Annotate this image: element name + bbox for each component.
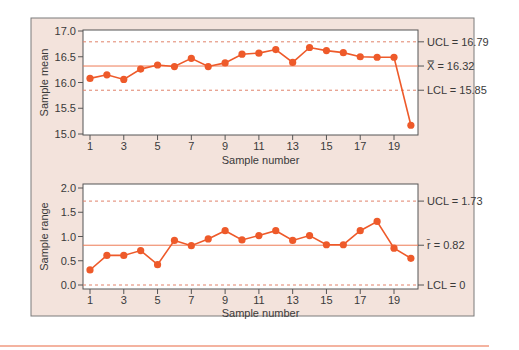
data-point: [137, 247, 144, 254]
data-point: [340, 241, 347, 248]
y-tick-label: 15.0: [55, 128, 76, 140]
y-tick-label: 1.0: [61, 231, 76, 243]
data-point: [407, 122, 414, 129]
y-tick-label: 16.5: [55, 51, 76, 63]
data-point: [188, 242, 195, 249]
data-point: [374, 54, 381, 61]
data-point: [222, 59, 229, 66]
data-point: [390, 54, 397, 61]
ucl-line-label: UCL = 1.73: [427, 195, 483, 207]
x-tick-label: 11: [253, 140, 264, 152]
plot-area: [83, 184, 418, 289]
plot-area: [83, 30, 418, 135]
x-axis-label: Sample number: [222, 307, 300, 319]
data-point: [289, 237, 296, 244]
x-tick-label: 19: [388, 294, 400, 306]
x-tick-label: 11: [253, 294, 264, 306]
x-tick-label: 1: [87, 294, 93, 306]
data-point: [103, 71, 110, 78]
y-tick-label: 17.0: [55, 25, 76, 37]
y-tick-label: 2.0: [61, 182, 76, 194]
data-point: [154, 61, 161, 68]
x-tick-label: 13: [287, 294, 299, 306]
x-tick-label: 9: [222, 294, 228, 306]
x-tick-label: 7: [188, 294, 194, 306]
x-tick-label: 3: [121, 294, 127, 306]
data-point: [323, 241, 330, 248]
data-point: [205, 63, 212, 70]
x-tick-label: 13: [287, 140, 299, 152]
lcl-line-label: LCL = 15.85: [427, 84, 487, 96]
x-axis-label: Sample number: [222, 154, 300, 166]
center-line-label: r̄ = 0.82: [426, 239, 464, 251]
data-point: [137, 66, 144, 73]
data-point: [289, 59, 296, 66]
data-point: [205, 235, 212, 242]
data-point: [306, 232, 313, 239]
center-line-label: X̿ = 16.32: [427, 60, 475, 72]
data-point: [255, 232, 262, 239]
ucl-line-label: UCL = 16.79: [427, 36, 489, 48]
data-point: [171, 63, 178, 70]
x-tick-label: 17: [354, 140, 366, 152]
y-axis-label: Sample range: [38, 202, 50, 271]
x-tick-label: 7: [188, 140, 194, 152]
x-tick-label: 15: [320, 140, 332, 152]
x-tick-label: 5: [154, 294, 160, 306]
data-point: [238, 236, 245, 243]
x-tick-label: 15: [320, 294, 332, 306]
y-tick-label: 0.0: [61, 279, 76, 291]
data-point: [222, 227, 229, 234]
data-point: [374, 218, 381, 225]
y-tick-label: 0.5: [61, 255, 76, 267]
data-point: [407, 255, 414, 262]
x-tick-label: 9: [222, 140, 228, 152]
data-point: [86, 266, 93, 273]
data-point: [357, 227, 364, 234]
y-tick-label: 16.0: [55, 77, 76, 89]
data-point: [323, 47, 330, 54]
x-tick-label: 5: [154, 140, 160, 152]
data-point: [255, 50, 262, 57]
data-point: [272, 46, 279, 53]
data-point: [188, 55, 195, 62]
data-point: [272, 227, 279, 234]
x-tick-label: 3: [121, 140, 127, 152]
data-point: [238, 51, 245, 58]
data-point: [154, 261, 161, 268]
x-tick-label: 17: [354, 294, 366, 306]
data-point: [120, 252, 127, 259]
data-point: [390, 245, 397, 252]
data-point: [86, 75, 93, 82]
data-point: [171, 237, 178, 244]
data-point: [103, 252, 110, 259]
data-point: [120, 76, 127, 83]
lcl-line-label: LCL = 0: [427, 279, 465, 291]
data-point: [306, 44, 313, 51]
y-tick-label: 1.5: [61, 206, 76, 218]
x-tick-label: 1: [87, 140, 93, 152]
y-axis-label: Sample mean: [38, 49, 50, 117]
x-tick-label: 19: [388, 140, 400, 152]
data-point: [357, 53, 364, 60]
data-point: [340, 49, 347, 56]
control-charts: 15.015.516.016.517.0135791113151719Sampl…: [0, 0, 519, 350]
y-tick-label: 15.5: [55, 102, 76, 114]
